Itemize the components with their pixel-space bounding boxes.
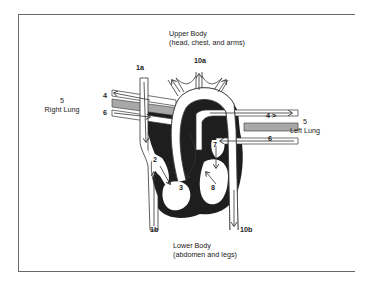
right-lung-number: 5 bbox=[40, 96, 84, 105]
label-4-left: 4 bbox=[103, 92, 107, 100]
label-6-left: 6 bbox=[103, 109, 107, 117]
label-4-right: 4 > bbox=[266, 112, 276, 120]
upper-body-subtitle: (head, chest, and arms) bbox=[169, 38, 245, 47]
left-lung-label: Left Lung bbox=[280, 126, 330, 135]
label-7: 7 bbox=[213, 141, 217, 149]
label-2: 2 bbox=[153, 156, 157, 164]
label-10a: 10a bbox=[194, 57, 206, 65]
upper-body-title: Upper Body bbox=[169, 29, 207, 38]
lower-body-title: Lower Body bbox=[173, 241, 211, 250]
label-9: 9 bbox=[180, 139, 184, 147]
lower-body-subtitle: (abdomen and legs) bbox=[173, 250, 237, 259]
left-lung-number: 5 bbox=[280, 117, 330, 126]
label-10b: 10b bbox=[240, 226, 252, 234]
label-8: 8 bbox=[211, 184, 215, 192]
label-3: 3 bbox=[179, 184, 183, 192]
label-6-right: 6 bbox=[268, 135, 272, 143]
label-1a: 1a bbox=[136, 64, 144, 72]
right-lung-label: Right Lung bbox=[40, 105, 84, 114]
label-1b: 1b bbox=[150, 226, 158, 234]
